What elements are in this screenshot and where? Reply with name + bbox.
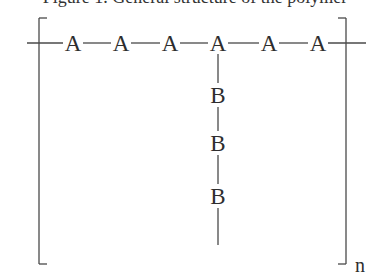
bond-lines: [27, 43, 366, 245]
backbone-unit-a: A: [261, 31, 278, 56]
backbone-unit-a: A: [65, 31, 82, 56]
backbone-unit-a: A: [210, 31, 227, 56]
atom-labels: AAAAAABBBn: [65, 31, 365, 274]
backbone-unit-a: A: [113, 31, 130, 56]
side-chain-unit-b: B: [210, 184, 225, 209]
backbone-unit-a: A: [162, 31, 179, 56]
polymer-structure-diagram: AAAAAABBBn: [0, 0, 390, 274]
backbone-unit-a: A: [310, 31, 327, 56]
repeat-subscript-n: n: [355, 254, 365, 274]
repeat-unit-brackets: [39, 18, 346, 264]
side-chain-unit-b: B: [210, 83, 225, 108]
side-chain-unit-b: B: [210, 131, 225, 156]
